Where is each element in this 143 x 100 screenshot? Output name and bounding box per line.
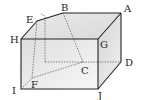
label-E: E: [26, 14, 33, 25]
label-B: B: [61, 2, 68, 13]
label-D: D: [125, 57, 133, 68]
label-C: C: [81, 65, 89, 76]
label-F: F: [31, 79, 38, 90]
label-A: A: [123, 3, 132, 14]
label-H: H: [10, 34, 19, 45]
label-I: I: [12, 85, 16, 96]
label-J: J: [97, 90, 102, 100]
label-G: G: [100, 39, 108, 50]
truncated-cuboid-diagram: A B E H G D C F I J: [0, 0, 143, 100]
